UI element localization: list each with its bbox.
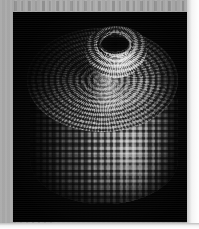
scan-artifact-top — [14, 1, 184, 11]
figure-page: Grayscale rendering of a barrel-shaped c… — [0, 0, 199, 229]
page-bottom-margin — [0, 223, 199, 229]
page-right-margin — [187, 0, 199, 229]
figure-plate — [13, 12, 187, 222]
sphere-packed-barrel — [13, 12, 187, 222]
central-pore — [101, 36, 129, 52]
